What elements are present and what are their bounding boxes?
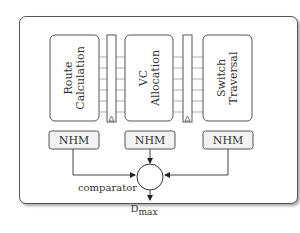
stage-switch-traversal: Switch Traversal bbox=[203, 35, 252, 121]
nhm-label: NHM bbox=[59, 134, 89, 147]
stage-label-line2: Traversal bbox=[227, 51, 240, 104]
comparator-label: comparator bbox=[78, 182, 137, 193]
buffer-1 bbox=[99, 35, 125, 122]
nhm-box-3: NHM bbox=[203, 131, 253, 149]
router-pipeline-diagram: Route Calculation VC Allocation bbox=[0, 0, 300, 233]
nhm-label: NHM bbox=[135, 134, 165, 147]
comparator-circle bbox=[137, 164, 163, 190]
arrow-nhm3-to-comparator bbox=[165, 149, 228, 175]
output-label: Dmax bbox=[130, 203, 157, 217]
nhm-box-1: NHM bbox=[49, 131, 99, 149]
arrow-nhm1-to-comparator bbox=[73, 149, 135, 175]
stage-label-line2: Allocation bbox=[149, 50, 162, 107]
stage-vc-allocation: VC Allocation bbox=[125, 35, 173, 121]
output-subscript: max bbox=[139, 207, 158, 217]
stage-label-line2: Calculation bbox=[74, 46, 87, 109]
nhm-box-2: NHM bbox=[125, 131, 175, 149]
buffer-2 bbox=[173, 35, 203, 122]
nhm-label: NHM bbox=[213, 134, 243, 147]
stage-route-calculation: Route Calculation bbox=[50, 35, 99, 121]
output-main: D bbox=[130, 203, 138, 214]
